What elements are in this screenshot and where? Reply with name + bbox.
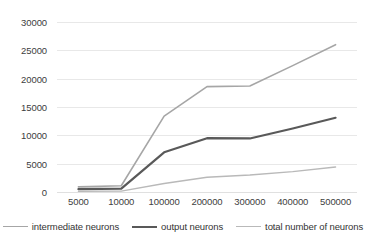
y-axis-tick-label: 10000 bbox=[21, 130, 47, 141]
x-axis-tick-label: 500000 bbox=[314, 196, 357, 212]
x-axis-tick-label: 100000 bbox=[143, 196, 186, 212]
y-axis-tick-label: 5000 bbox=[26, 158, 47, 169]
series-layer bbox=[57, 22, 357, 192]
y-axis-tick-label: 20000 bbox=[21, 73, 47, 84]
legend-line-swatch bbox=[3, 226, 28, 227]
chart-legend: intermediate neuronsoutput neuronstotal … bbox=[0, 221, 366, 232]
x-axis-tick-label: 300000 bbox=[228, 196, 271, 212]
y-axis: 300002500020000150001000050000 bbox=[0, 22, 52, 192]
legend-item[interactable]: output neurons bbox=[132, 221, 223, 232]
x-axis-tick-label: 400000 bbox=[271, 196, 314, 212]
legend-line-swatch bbox=[236, 226, 261, 227]
legend-item-label: intermediate neurons bbox=[32, 221, 119, 232]
x-axis: 500010000100000200000300000400000500000 bbox=[57, 196, 357, 212]
gridline bbox=[57, 192, 357, 193]
y-axis-tick-label: 15000 bbox=[21, 102, 47, 113]
series-line bbox=[78, 45, 335, 187]
legend-line-swatch bbox=[132, 226, 157, 228]
line-chart: 300002500020000150001000050000 500010000… bbox=[0, 0, 366, 242]
y-axis-tick-label: 25000 bbox=[21, 45, 47, 56]
legend-item[interactable]: total number of neurons bbox=[236, 221, 363, 232]
x-axis-tick-label: 200000 bbox=[186, 196, 229, 212]
plot-area bbox=[57, 22, 357, 192]
x-axis-tick-label: 5000 bbox=[57, 196, 100, 212]
y-axis-tick-label: 0 bbox=[42, 187, 47, 198]
legend-item-label: output neurons bbox=[161, 221, 223, 232]
legend-item[interactable]: intermediate neurons bbox=[3, 221, 119, 232]
y-axis-tick-label: 30000 bbox=[21, 17, 47, 28]
series-line bbox=[78, 118, 335, 189]
x-axis-tick-label: 10000 bbox=[100, 196, 143, 212]
legend-item-label: total number of neurons bbox=[265, 221, 363, 232]
